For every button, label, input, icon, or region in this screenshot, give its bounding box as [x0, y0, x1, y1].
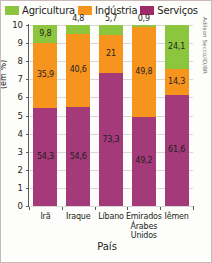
bar-segment-serviços: 73,3 [99, 73, 123, 206]
bar-value-label: 54,3 [37, 153, 54, 161]
bar-segment-agricultura [66, 25, 90, 34]
y-tick-label: 7 [1, 74, 23, 84]
plot-area: 54,335,99,84,854,640,65,773,3210,949,249… [29, 25, 193, 206]
y-tick-label: 4 [1, 129, 23, 139]
x-tick-label: Iêmen [154, 212, 200, 222]
bar-segment-agricultura [99, 25, 123, 35]
bar-segment-agricultura: 24,1 [165, 25, 189, 69]
bar-segment-indústria: 21 [99, 35, 123, 73]
y-tick-label: 9 [1, 38, 23, 48]
chart-figure: Agricultura Indústria Serviços Adilson S… [0, 0, 212, 263]
bar-stack: 61,614,324,1 [165, 25, 189, 206]
bar-segment-indústria: 14,3 [165, 69, 189, 95]
bar-value-label: 54,6 [70, 153, 87, 161]
x-tick-mark [29, 207, 30, 210]
bar-value-label: 49,2 [135, 157, 152, 165]
bar-stack: 54,335,99,8 [33, 25, 57, 206]
bar-segment-agricultura [132, 25, 156, 27]
bar-value-label: 21 [106, 50, 116, 58]
bar-segment-indústria: 35,9 [33, 43, 57, 108]
bar-value-label: 35,9 [37, 71, 54, 79]
image-credit: Adilson Secco/ID/BR [199, 17, 211, 137]
x-tick-mark [62, 207, 63, 210]
bar-segment-serviços: 61,6 [165, 95, 189, 206]
bar-segment-serviços: 49,2 [132, 117, 156, 206]
bar-segment-agricultura: 9,8 [33, 25, 57, 43]
bar-value-label: 49,8 [135, 68, 152, 76]
y-tick-label: 5 [1, 111, 23, 121]
bar-stack: 54,640,6 [66, 25, 90, 206]
bar-stack: 73,321 [99, 25, 123, 206]
bar-value-label: 9,8 [39, 30, 51, 38]
bar-segment-serviços: 54,3 [33, 108, 57, 206]
y-tick-label: 2 [1, 165, 23, 175]
bar-value-label: 14,3 [168, 78, 185, 86]
bar-value-label: 61,6 [168, 146, 185, 154]
y-tick-label: 0 [1, 201, 23, 211]
y-tick-label: 1 [1, 183, 23, 193]
bar-value-label: 73,3 [102, 136, 119, 144]
bar-segment-indústria: 49,8 [132, 27, 156, 117]
bar-segment-serviços: 54,6 [66, 107, 90, 206]
x-tick-mark [193, 207, 194, 210]
bar-value-label-outside: 0,9 [124, 14, 164, 23]
x-axis-title: País [1, 241, 212, 252]
image-credit-text: Adilson Secco/ID/BR [202, 17, 208, 74]
bar-segment-indústria: 40,6 [66, 34, 90, 107]
y-tick-label: 6 [1, 92, 23, 102]
x-tick-mark [160, 207, 161, 210]
y-tick-label: 3 [1, 147, 23, 157]
y-tick-label: 8 [1, 56, 23, 66]
bar-value-label: 40,6 [70, 66, 87, 74]
legend-swatch-green [5, 6, 19, 15]
y-tick-label: 10 [1, 20, 23, 30]
x-tick-mark [95, 207, 96, 210]
bar-value-label: 24,1 [168, 43, 185, 51]
gridline [29, 206, 193, 207]
x-tick-mark [127, 207, 128, 210]
bar-stack: 49,249,8 [132, 25, 156, 206]
